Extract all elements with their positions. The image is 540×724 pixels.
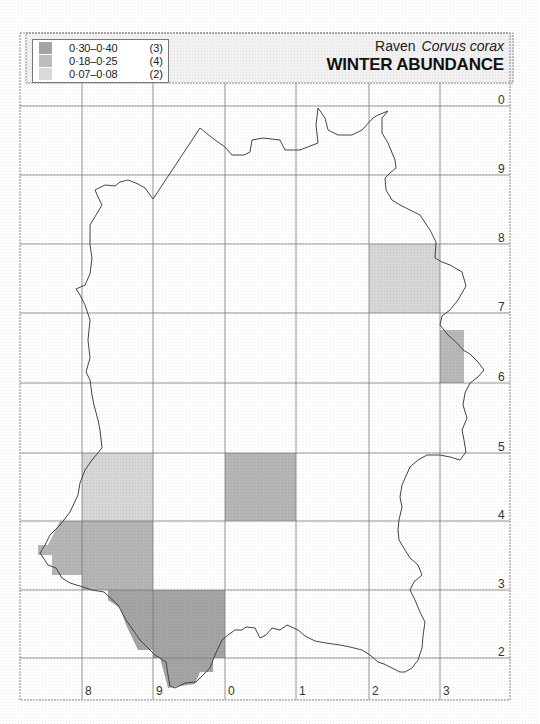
species-name: RavenCorvus corax: [327, 38, 505, 55]
legend-range: 0·18–0·25: [69, 54, 117, 68]
legend-swatch-high: [39, 42, 52, 54]
grid-lines: [20, 83, 510, 700]
grid-label-y: 8: [498, 231, 505, 245]
grid-label-y: 3: [498, 577, 505, 591]
grid-label-y: 0: [498, 93, 505, 107]
grid-label-x: 1: [299, 684, 306, 698]
grid-label-y: 9: [498, 162, 505, 176]
square-light: [82, 453, 153, 521]
abundance-squares: [0, 0, 540, 724]
map-heading: WINTER ABUNDANCE: [327, 55, 505, 75]
square-light: [369, 244, 440, 313]
map-frame: [20, 33, 510, 700]
distribution-map: [0, 0, 540, 724]
map-title: RavenCorvus corax WINTER ABUNDANCE: [327, 38, 505, 75]
square-medium: [38, 521, 82, 575]
grid-label-x: 0: [228, 684, 235, 698]
legend-swatch-medium: [39, 55, 52, 67]
grid-label-y: 5: [498, 440, 505, 454]
legend: 0·30–0·40 (3) 0·18–0·25 (4) 0·07–0·08 (2…: [32, 39, 169, 83]
legend-item-low: 0·07–0·08 (2): [37, 67, 165, 81]
square-dark: [108, 590, 153, 650]
legend-item-high: 0·30–0·40 (3): [37, 41, 165, 55]
legend-count: (2): [150, 67, 163, 81]
grid-label-y: 6: [498, 370, 505, 384]
legend-item-medium: 0·18–0·25 (4): [37, 54, 165, 68]
grid-label-y: 4: [498, 508, 505, 522]
square-medium: [82, 521, 153, 590]
species-latin-name: Corvus corax: [422, 38, 504, 54]
legend-swatch-low: [39, 68, 52, 80]
grid-label-x: 3: [443, 684, 450, 698]
grid-label-x: 8: [85, 684, 92, 698]
legend-count: (3): [150, 41, 163, 55]
square-medium: [225, 453, 296, 521]
legend-range: 0·30–0·40: [69, 41, 117, 55]
species-common-name: Raven: [375, 38, 415, 54]
grid-label-x: 9: [156, 684, 163, 698]
legend-count: (4): [150, 54, 163, 68]
grid-label-y: 7: [498, 300, 505, 314]
grid-label-y: 2: [498, 645, 505, 659]
legend-range: 0·07–0·08: [69, 67, 117, 81]
square-dark: [153, 590, 225, 658]
county-outline: [40, 108, 484, 688]
grid-label-x: 2: [372, 684, 379, 698]
